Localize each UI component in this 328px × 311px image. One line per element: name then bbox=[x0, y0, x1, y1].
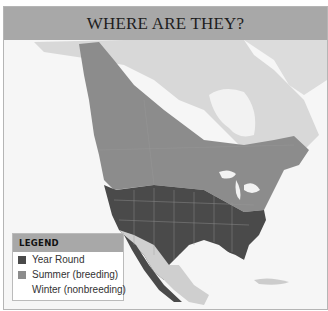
title-bar: WHERE ARE THEY? bbox=[4, 7, 327, 40]
legend: LEGEND Year Round Summer (breeding) Wint… bbox=[12, 233, 124, 301]
year-round-swatch bbox=[18, 256, 26, 264]
map-title: WHERE ARE THEY? bbox=[87, 14, 245, 34]
legend-item-summer: Summer (breeding) bbox=[13, 267, 123, 282]
legend-heading: LEGEND bbox=[19, 238, 59, 248]
legend-item-year-round: Year Round bbox=[13, 252, 123, 267]
legend-label: Year Round bbox=[32, 254, 84, 265]
range-map-card: WHERE ARE THEY? bbox=[3, 6, 328, 310]
legend-label: Winter (nonbreeding) bbox=[32, 284, 126, 295]
winter-swatch bbox=[18, 286, 26, 294]
legend-label: Summer (breeding) bbox=[32, 269, 118, 280]
summer-swatch bbox=[18, 271, 26, 279]
legend-item-winter: Winter (nonbreeding) bbox=[13, 282, 123, 297]
legend-header: LEGEND bbox=[13, 234, 123, 252]
